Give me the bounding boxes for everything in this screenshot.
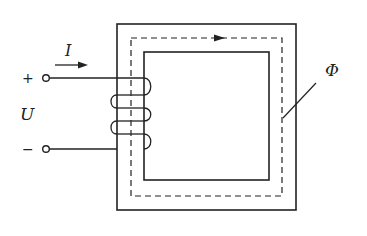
plus-sign: + <box>22 70 34 86</box>
magnetic-circuit-diagram: I U Φ + − <box>0 0 367 236</box>
flux-label: Φ <box>325 60 339 80</box>
minus-sign: − <box>22 141 34 157</box>
terminal-negative <box>43 146 50 153</box>
core-inner-window <box>144 52 269 180</box>
current-label: I <box>64 41 72 60</box>
current-arrow <box>55 62 88 69</box>
flux-path-dashed <box>131 38 282 196</box>
terminal-positive <box>43 75 50 82</box>
voltage-label: U <box>20 104 35 124</box>
flux-direction-arrow <box>214 35 225 42</box>
flux-leader-line <box>283 83 316 118</box>
